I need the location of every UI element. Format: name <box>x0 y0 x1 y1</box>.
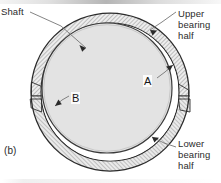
label-lower-line-3: half <box>178 160 210 171</box>
label-lower-bearing-half: Lower bearing half <box>178 138 210 172</box>
shaft-journal <box>42 23 172 153</box>
callout-label-b: B <box>71 92 80 104</box>
label-lower-line-2: bearing <box>178 149 210 160</box>
label-shaft: Shaft <box>1 6 24 17</box>
shaft-circle <box>42 23 172 153</box>
label-lower-line-1: Lower <box>178 138 210 149</box>
label-upper-line-1: Upper <box>178 8 210 19</box>
callout-label-a: A <box>143 75 152 87</box>
label-upper-bearing-half: Upper bearing half <box>178 8 210 42</box>
label-upper-line-3: half <box>178 30 210 41</box>
figure-caption: (b) <box>4 145 17 156</box>
bearing-figure: Shaft Upper bearing half Lower bearing h… <box>0 0 221 183</box>
label-upper-line-2: bearing <box>178 19 210 30</box>
